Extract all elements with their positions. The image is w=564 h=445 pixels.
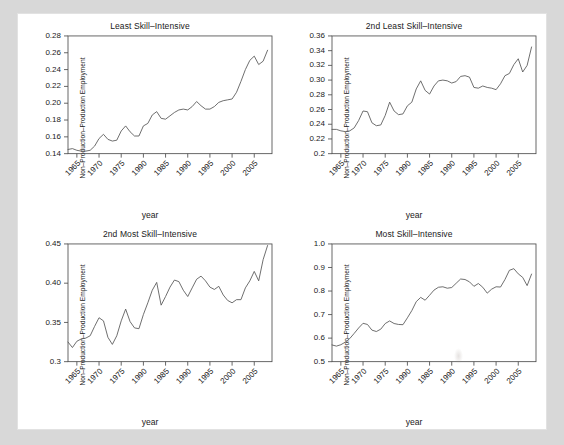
svg-text:0.14: 0.14 <box>45 149 61 158</box>
svg-text:2005: 2005 <box>241 366 260 385</box>
panel-2nd-least-skill-intensive: 2nd Least Skill–Intensive Non–Production… <box>282 14 546 222</box>
svg-text:0.26: 0.26 <box>45 48 61 57</box>
svg-text:0.45: 0.45 <box>45 239 61 248</box>
svg-text:0.9: 0.9 <box>314 262 326 271</box>
svg-text:2000: 2000 <box>483 366 502 385</box>
svg-text:1990: 1990 <box>174 158 193 177</box>
svg-text:1990: 1990 <box>130 158 149 177</box>
svg-text:0.16: 0.16 <box>45 132 61 141</box>
svg-text:1995: 1995 <box>460 158 479 177</box>
svg-text:0.28: 0.28 <box>45 31 61 40</box>
svg-text:0.36: 0.36 <box>309 31 325 40</box>
svg-text:1985: 1985 <box>416 366 435 385</box>
svg-text:0.18: 0.18 <box>45 115 61 124</box>
svg-text:1970: 1970 <box>86 366 105 385</box>
panel-least-skill-intensive: Least Skill–Intensive Non–Production–Pro… <box>18 14 282 222</box>
figure-page: Least Skill–Intensive Non–Production–Pro… <box>18 14 546 429</box>
svg-text:0.22: 0.22 <box>309 134 325 143</box>
svg-text:1970: 1970 <box>350 366 369 385</box>
svg-text:1990: 1990 <box>438 366 457 385</box>
svg-text:0.7: 0.7 <box>314 309 326 318</box>
svg-text:2005: 2005 <box>505 158 524 177</box>
svg-text:2000: 2000 <box>483 158 502 177</box>
svg-text:0.30: 0.30 <box>309 75 325 84</box>
svg-text:1985: 1985 <box>152 158 171 177</box>
svg-text:1975: 1975 <box>108 366 127 385</box>
svg-text:1965: 1965 <box>327 366 346 385</box>
svg-text:1995: 1995 <box>196 366 215 385</box>
svg-text:1965: 1965 <box>63 366 82 385</box>
svg-text:0.22: 0.22 <box>45 82 61 91</box>
panel-most-skill-intensive: Most Skill–Intensive Non–Production–Prod… <box>282 222 546 430</box>
x-axis-title: year <box>282 210 546 220</box>
plot-area: 0.140.160.180.200.220.240.260.2819651970… <box>18 14 282 222</box>
svg-text:1990: 1990 <box>394 158 413 177</box>
svg-text:2005: 2005 <box>241 158 260 177</box>
svg-text:0.24: 0.24 <box>45 65 61 74</box>
svg-text:1985: 1985 <box>416 158 435 177</box>
svg-text:2000: 2000 <box>219 366 238 385</box>
svg-text:0.40: 0.40 <box>45 278 61 287</box>
x-axis-title: year <box>18 210 282 220</box>
svg-text:1965: 1965 <box>327 158 346 177</box>
svg-text:2005: 2005 <box>505 366 524 385</box>
svg-text:0.3: 0.3 <box>50 356 62 365</box>
svg-text:1965: 1965 <box>63 158 82 177</box>
panel-2nd-most-skill-intensive: 2nd Most Skill–Intensive Non–Production–… <box>18 222 282 430</box>
svg-text:1990: 1990 <box>438 158 457 177</box>
svg-text:0.26: 0.26 <box>309 105 325 114</box>
paper-smudge-artifact <box>454 348 463 364</box>
svg-text:1995: 1995 <box>196 158 215 177</box>
svg-text:1975: 1975 <box>372 366 391 385</box>
svg-text:1985: 1985 <box>152 366 171 385</box>
plot-area: 0.30.350.400.451965197019751990198519901… <box>18 222 282 430</box>
plot-area: 0.50.60.70.80.91.01965197019751990198519… <box>282 222 546 430</box>
svg-text:0.5: 0.5 <box>314 356 326 365</box>
svg-text:0.2: 0.2 <box>314 149 326 158</box>
svg-text:1990: 1990 <box>394 366 413 385</box>
x-axis-title: year <box>18 417 282 427</box>
svg-text:1990: 1990 <box>174 366 193 385</box>
svg-text:1975: 1975 <box>108 158 127 177</box>
svg-text:2000: 2000 <box>219 158 238 177</box>
x-axis-title: year <box>282 417 546 427</box>
svg-text:0.8: 0.8 <box>314 286 326 295</box>
svg-text:1995: 1995 <box>460 366 479 385</box>
svg-text:0.28: 0.28 <box>309 90 325 99</box>
svg-text:0.34: 0.34 <box>309 46 325 55</box>
svg-text:1970: 1970 <box>350 158 369 177</box>
svg-text:0.32: 0.32 <box>309 60 325 69</box>
svg-text:1975: 1975 <box>372 158 391 177</box>
svg-text:1990: 1990 <box>130 366 149 385</box>
svg-text:0.24: 0.24 <box>309 119 325 128</box>
panel-grid: Least Skill–Intensive Non–Production–Pro… <box>18 14 546 429</box>
svg-text:0.35: 0.35 <box>45 317 61 326</box>
plot-area: 0.20.220.240.260.280.300.320.340.3619651… <box>282 14 546 222</box>
svg-text:1970: 1970 <box>86 158 105 177</box>
svg-text:0.6: 0.6 <box>314 333 326 342</box>
svg-text:0.20: 0.20 <box>45 98 61 107</box>
svg-text:1.0: 1.0 <box>314 239 326 248</box>
